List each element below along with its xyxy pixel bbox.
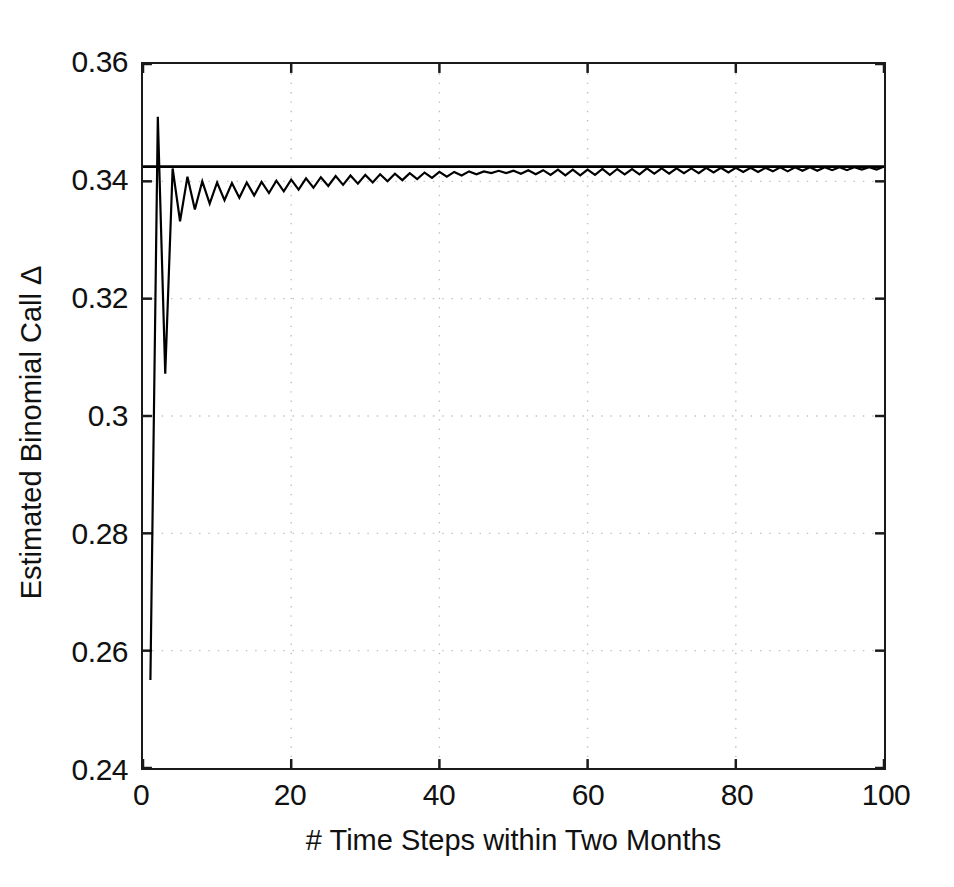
y-axis-title: Estimated Binomial Call Δ <box>15 79 48 787</box>
y-tick-label: 0.24 <box>72 753 128 787</box>
x-tick-label: 100 <box>862 778 911 812</box>
x-tick-label: 0 <box>133 778 149 812</box>
x-axis-title: # Time Steps within Two Months <box>141 824 886 857</box>
x-tick-label: 40 <box>423 778 455 812</box>
axis-ticks <box>143 64 884 768</box>
x-axis-tick-labels: 020406080100 <box>141 778 886 818</box>
x-tick-label: 60 <box>572 778 604 812</box>
x-tick-label: 80 <box>721 778 753 812</box>
chart-figure: 0.240.260.280.30.320.340.36 020406080100… <box>0 0 954 887</box>
y-tick-label: 0.3 <box>88 399 128 433</box>
gridlines <box>143 64 884 768</box>
y-tick-label: 0.32 <box>72 281 128 315</box>
y-tick-label: 0.26 <box>72 635 128 669</box>
y-tick-label: 0.28 <box>72 517 128 551</box>
y-tick-label: 0.34 <box>72 163 128 197</box>
plot-canvas <box>143 64 884 768</box>
x-tick-label: 20 <box>274 778 306 812</box>
data-series-layer <box>143 117 884 680</box>
y-tick-label: 0.36 <box>72 45 128 79</box>
plot-area <box>141 62 886 770</box>
